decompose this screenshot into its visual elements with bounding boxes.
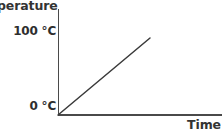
x-axis-title: Time <box>187 117 221 132</box>
plot-area <box>0 0 222 132</box>
temperature-data-line <box>58 38 150 115</box>
temperature-vs-time-chart: mperature 100 °C 0 °C Time <box>0 0 222 132</box>
